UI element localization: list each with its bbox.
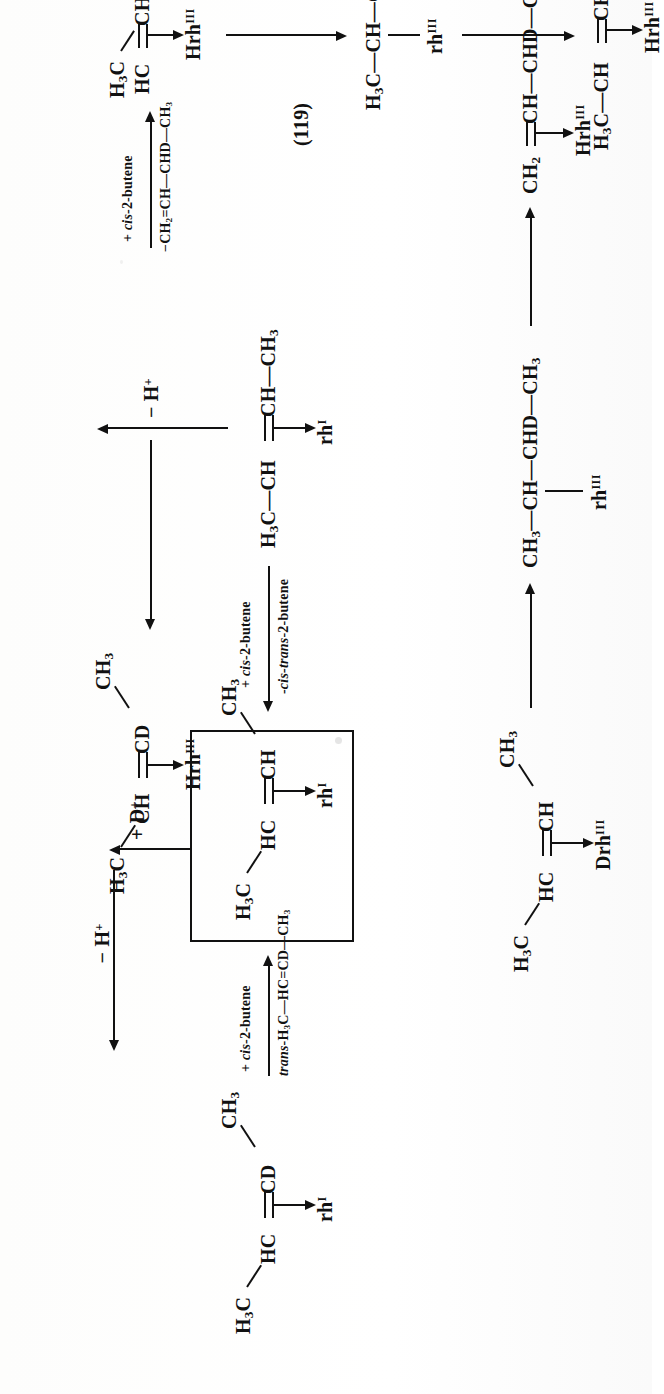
species-drh-hc: HC xyxy=(535,872,558,902)
species-start-ch3: CH3 xyxy=(218,1092,243,1129)
reaction-arrow-1-head xyxy=(263,955,273,966)
reaction-arrow-down-2-head xyxy=(564,31,575,41)
double-bond-upper xyxy=(264,1192,266,1218)
reaction-arrow-3-shaft xyxy=(530,214,532,326)
reaction-arrow-3-head xyxy=(525,207,535,218)
species-cdbutene-hrh-cd: CD xyxy=(131,725,154,754)
reaction-arrow-1-shaft xyxy=(268,964,270,1076)
species-drh-ch: CH xyxy=(535,802,558,832)
species-cdbutene-hrh-ch3: CH3 xyxy=(92,653,117,690)
bond-to-catalyst xyxy=(273,1204,307,1206)
species-boxed-h3c: H3C xyxy=(232,883,257,920)
reagent-label-add-cis-2-butene: + cis-2-butene xyxy=(238,985,254,1072)
species-right-hrh-hc: HC xyxy=(131,64,154,94)
catalyst-hrh3-right-bottom: HrhIII xyxy=(641,1,664,53)
catalyst-rh1-start: rhI xyxy=(314,1196,337,1222)
bond-to-catalyst xyxy=(545,490,583,492)
reaction-arrow-2-head xyxy=(525,583,535,594)
d-plus-arrow-shaft xyxy=(118,848,192,850)
double-bond-lower xyxy=(146,24,148,48)
reaction-arrow-down-1-head xyxy=(336,31,347,41)
reaction-arrow-2-shaft xyxy=(530,590,532,708)
d-plus-arrow-head xyxy=(109,845,120,855)
equation-number: (119) xyxy=(290,103,313,146)
species-boxed-hc: HC xyxy=(257,820,280,850)
species-butyl-rh3-chain: H3C—CH—C2H5 xyxy=(362,0,387,110)
catalyst-drh3: DrhIII xyxy=(592,819,615,870)
minus-h-plus-arrow-right-shaft xyxy=(106,427,228,429)
double-bond-upper xyxy=(138,752,140,778)
double-bond-upper xyxy=(597,19,599,43)
catalyst-rh3-secbutyl: rhIII xyxy=(588,474,611,510)
species-top-butene-ch2: CH2 xyxy=(519,157,544,194)
reaction-arrow-long-left-shaft xyxy=(150,440,152,622)
reaction-arrow-4-head xyxy=(145,111,155,122)
catalyst-rh1-right: rhI xyxy=(314,419,337,445)
bond-to-catalyst xyxy=(535,132,565,134)
double-bond-upper xyxy=(542,830,544,856)
double-bond-lower xyxy=(605,19,607,43)
minus-h-plus-left-group: − H+ xyxy=(95,862,135,1062)
catalyst-rh3-butyl: rhIII xyxy=(424,18,447,54)
double-bond-upper xyxy=(138,24,140,48)
double-bond-lower xyxy=(534,122,536,146)
reagent-label-top-minus-butene-d: −CH2=CH—CHD—CH3 xyxy=(158,102,174,252)
species-start-hc: HC xyxy=(257,1234,280,1264)
reaction-arrow-down-2-shaft xyxy=(462,34,566,36)
species-start-h3c: H3C xyxy=(232,1297,257,1334)
double-bond-upper xyxy=(264,778,266,804)
species-cdbutene-hrh-ch: CH xyxy=(131,794,154,824)
bond-to-catalyst xyxy=(551,842,585,844)
species-start-cd: CD xyxy=(257,1165,280,1194)
minus-h-plus-arrow-right-head xyxy=(97,424,108,434)
reaction-arrow-down-1-shaft xyxy=(226,34,338,36)
reagent-label-top-add-cis-2-butene: + cis-2-butene xyxy=(120,155,136,242)
species-drh-h3c: H3C xyxy=(510,935,535,972)
species-secbutyl-chain: CH3—CH—CHD—CH3 xyxy=(519,358,544,568)
bond-to-catalyst xyxy=(388,34,420,36)
reagent-label-add-cis-2-butene-back: + cis-2-butene xyxy=(238,601,254,688)
reaction-arrow-back-shaft xyxy=(268,566,270,704)
bond-to-catalyst xyxy=(273,790,307,792)
reaction-arrow-long-left-head xyxy=(145,619,155,630)
catalyst-hrh3-right-top: HrhIII xyxy=(182,8,205,60)
label-minus-h-plus-left: − H+ xyxy=(91,924,114,964)
catalyst-rh1-boxed: rhI xyxy=(314,782,337,808)
bond-to-catalyst xyxy=(606,29,634,31)
reaction-arrow-back-head xyxy=(263,701,273,712)
species-right-hrh-h3c: H3C xyxy=(106,61,131,98)
scan-speck xyxy=(120,260,123,264)
species-drh-ch3: CH3 xyxy=(496,731,521,768)
species-right-butene-chain2: CH—CH3 xyxy=(590,0,615,21)
catalyst-hrh3-cdbutene: HrhIII xyxy=(182,738,205,790)
species-right-hrh-ch: CH xyxy=(131,0,154,26)
bond-to-catalyst xyxy=(147,34,175,36)
reagent-label-minus-cis-trans-butene: -cis-trans-2-butene xyxy=(276,579,292,694)
species-butene-rh1-chain: H3C—CH xyxy=(257,460,282,548)
species-top-butene-rest: CH—CHD—CH3 xyxy=(519,0,544,124)
double-bond-upper xyxy=(526,122,528,146)
double-bond-upper xyxy=(264,415,266,441)
species-right-butene-chain1: H3C—CH xyxy=(590,62,615,150)
label-minus-h-plus-right: − H+ xyxy=(140,378,163,418)
bond-to-catalyst xyxy=(273,427,307,429)
species-butene-rh1-chain2: CH—CH3 xyxy=(257,329,282,417)
reaction-arrow-4-shaft xyxy=(150,118,152,248)
bond-to-catalyst xyxy=(147,764,175,766)
species-boxed-ch: CH xyxy=(257,750,280,780)
